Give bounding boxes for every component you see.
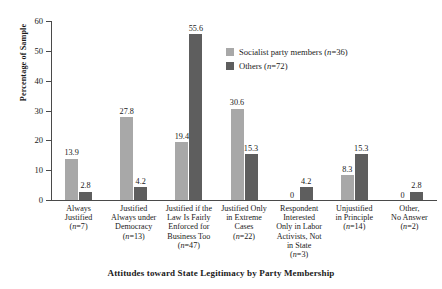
bar: 2.8 bbox=[410, 192, 423, 200]
x-axis-category-line: Respondent bbox=[266, 204, 332, 213]
bar-value-label: 0 bbox=[290, 192, 294, 200]
y-axis-tick bbox=[46, 81, 51, 82]
bar: 15.3 bbox=[245, 154, 258, 200]
bar-value-label: 27.8 bbox=[120, 108, 134, 116]
x-axis-category-line: Interested bbox=[266, 213, 332, 222]
legend-label-others: Others (n=72) bbox=[239, 60, 288, 72]
bar-group: 02.8 bbox=[396, 21, 423, 200]
y-axis-tick bbox=[46, 21, 51, 22]
y-axis-tick-label: 10 bbox=[13, 166, 43, 175]
bar: 30.6 bbox=[231, 109, 244, 200]
y-axis-tick bbox=[46, 51, 51, 52]
x-axis-category-line: (n=2) bbox=[381, 222, 437, 231]
bar-group: 27.84.2 bbox=[120, 21, 147, 200]
bar: 19.4 bbox=[175, 142, 188, 200]
x-axis-category-line: Unjustified bbox=[325, 204, 383, 213]
x-axis-category-line: (n=14) bbox=[325, 222, 383, 231]
x-axis-category-label: RespondentInterestedOnly in LaborActivis… bbox=[266, 204, 332, 259]
x-axis-category-label: Other,No Answer(n=2) bbox=[381, 204, 437, 232]
legend-item-socialist: Socialist party members (n=36) bbox=[226, 46, 348, 58]
y-axis-tick bbox=[46, 111, 51, 112]
bar: 27.8 bbox=[120, 117, 133, 200]
legend-label-socialist: Socialist party members (n=36) bbox=[239, 46, 348, 58]
legend-item-others: Others (n=72) bbox=[226, 60, 348, 72]
bar: 13.9 bbox=[65, 159, 78, 200]
bar-group: 13.92.8 bbox=[65, 21, 92, 200]
bar-group: 19.455.6 bbox=[175, 21, 202, 200]
y-axis-tick bbox=[46, 140, 51, 141]
x-axis-category-line: Other, bbox=[381, 204, 437, 213]
y-axis-tick-label: 60 bbox=[13, 17, 43, 26]
x-axis-category-line: Activists, Not bbox=[266, 232, 332, 241]
bar-value-label: 2.8 bbox=[411, 182, 421, 190]
x-axis-category-line: in State bbox=[266, 241, 332, 250]
x-axis-category-label: Unjustifiedin Principle(n=14) bbox=[325, 204, 383, 232]
bar-value-label: 0 bbox=[400, 192, 404, 200]
bar-value-label: 8.3 bbox=[342, 166, 352, 174]
bar: 15.3 bbox=[355, 154, 368, 200]
legend-swatch-icon-others bbox=[226, 62, 234, 70]
bar: 4.2 bbox=[134, 187, 147, 200]
bar-value-label: 55.6 bbox=[189, 25, 203, 33]
bar-chart-figure: Percentage of Sample 0102030405060 13.92… bbox=[0, 0, 442, 289]
x-axis-category-line: No Answer bbox=[381, 213, 437, 222]
x-axis-category-label: AlwaysJustified(n=7) bbox=[53, 204, 105, 232]
x-axis-category-line: (n=7) bbox=[53, 222, 105, 231]
bar-value-label: 30.6 bbox=[230, 99, 244, 107]
bar-value-label: 2.8 bbox=[80, 182, 90, 190]
y-axis-tick-label: 30 bbox=[13, 107, 43, 116]
bar: 4.2 bbox=[300, 187, 313, 200]
x-axis-category-line: Always bbox=[53, 204, 105, 213]
x-axis-category-line: (n=47) bbox=[153, 241, 225, 250]
legend: Socialist party members (n=36) Others (n… bbox=[226, 46, 348, 74]
bar-value-label: 15.3 bbox=[244, 145, 258, 153]
x-axis-line bbox=[51, 200, 437, 201]
bar-value-label: 4.2 bbox=[301, 178, 311, 186]
bar: 2.8 bbox=[79, 192, 92, 200]
y-axis-line bbox=[51, 21, 52, 200]
x-axis-category-line: (n=3) bbox=[266, 250, 332, 259]
x-axis-category-line: in Principle bbox=[325, 213, 383, 222]
bar-value-label: 4.2 bbox=[136, 178, 146, 186]
y-axis-tick-label: 20 bbox=[13, 136, 43, 145]
bar-value-label: 13.9 bbox=[64, 149, 78, 157]
y-axis-tick bbox=[46, 170, 51, 171]
y-axis-tick-label: 50 bbox=[13, 47, 43, 56]
legend-swatch-icon-socialist bbox=[226, 48, 234, 56]
x-axis-title: Attitudes toward State Legitimacy by Par… bbox=[0, 268, 442, 278]
x-axis-category-line: Justified bbox=[53, 213, 105, 222]
x-axis-category-line: Only in Labor bbox=[266, 222, 332, 231]
bar-value-label: 19.4 bbox=[175, 133, 189, 141]
y-axis-tick-label: 40 bbox=[13, 77, 43, 86]
y-axis-tick bbox=[46, 200, 51, 201]
bar: 55.6 bbox=[189, 34, 202, 200]
bar: 8.3 bbox=[341, 175, 354, 200]
y-axis-tick-label: 0 bbox=[13, 196, 43, 205]
bar-value-label: 15.3 bbox=[354, 145, 368, 153]
